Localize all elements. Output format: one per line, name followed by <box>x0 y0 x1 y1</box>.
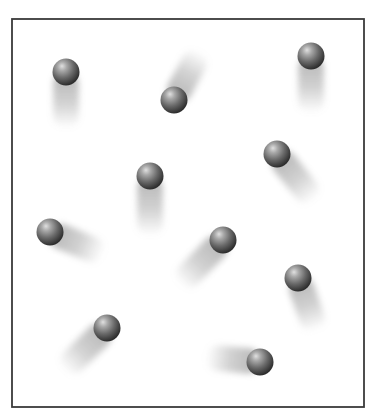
molecule-sphere <box>53 59 80 86</box>
molecule-sphere <box>247 349 274 376</box>
diagram-canvas <box>0 0 370 419</box>
molecule-sphere <box>94 315 121 342</box>
molecule-sphere <box>161 87 188 114</box>
molecule-sphere <box>137 163 164 190</box>
molecule-sphere <box>285 265 312 292</box>
molecule-sphere <box>264 141 291 168</box>
gas-molecules-diagram <box>0 0 370 419</box>
molecule-sphere <box>298 43 325 70</box>
molecule-sphere <box>37 219 64 246</box>
molecule-sphere <box>210 227 237 254</box>
